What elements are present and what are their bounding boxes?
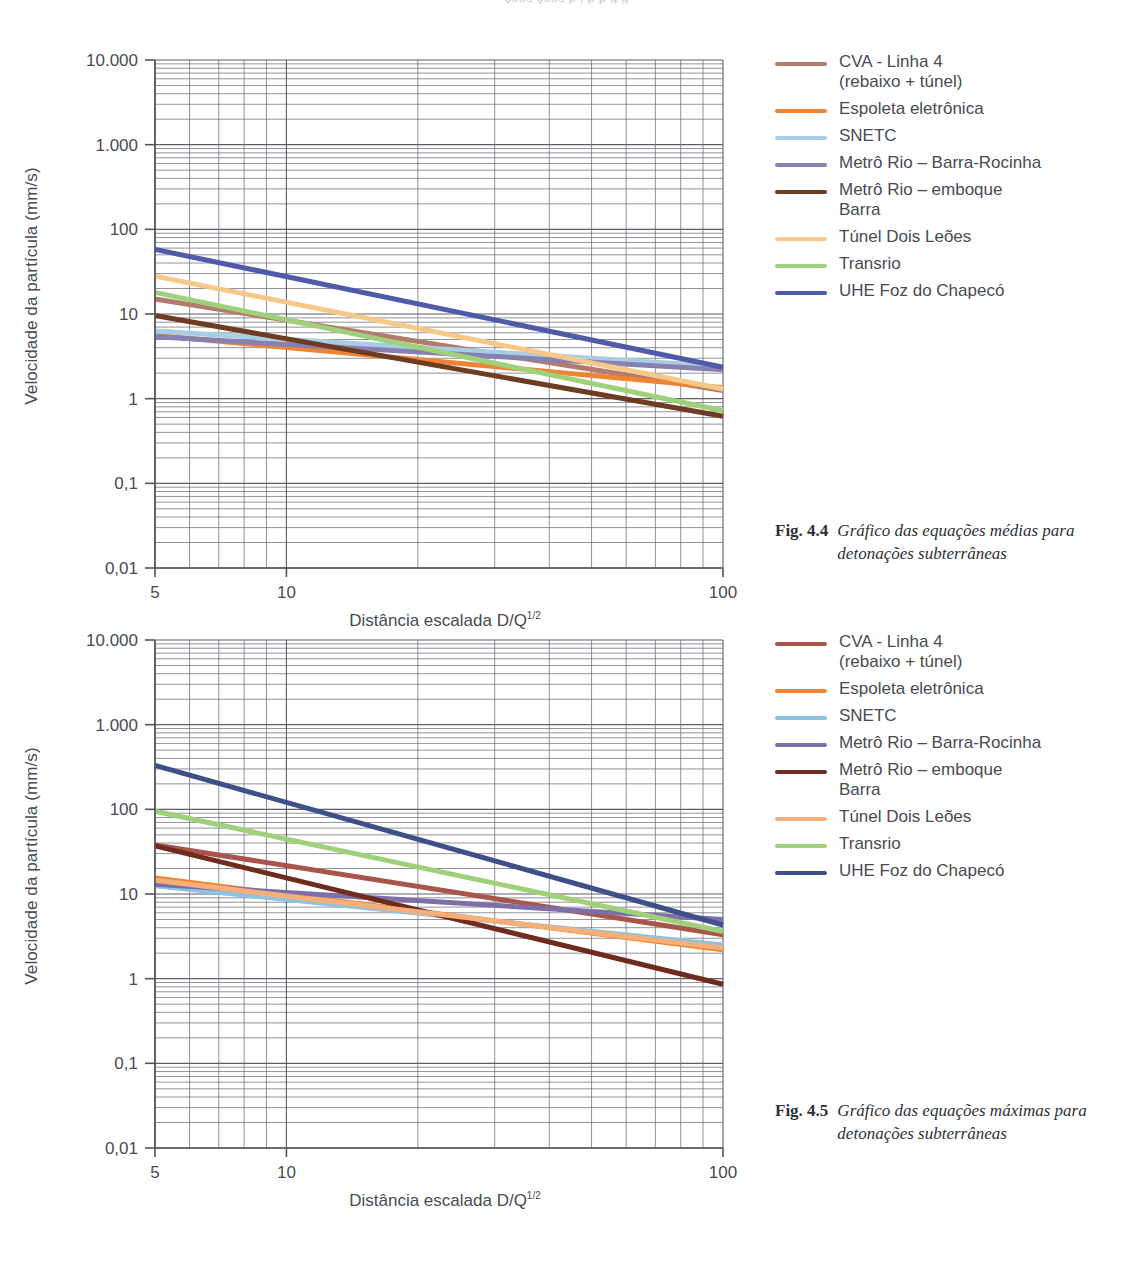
- legend-swatch-icon: [775, 237, 827, 241]
- y-axis-tick-label: 1.000: [95, 716, 138, 735]
- y-axis-tick-label: 1.000: [95, 136, 138, 155]
- legend-swatch-icon: [775, 62, 827, 66]
- chart-4-4: 0,010,11101001.00010.000510100 Velocidad…: [0, 30, 770, 630]
- x-axis-tick-label: 5: [150, 1163, 159, 1182]
- legend-swatch-icon: [775, 817, 827, 821]
- legend-item-1[interactable]: Espoleta eletrônica: [775, 679, 1133, 699]
- legend-item-label: Transrio: [839, 254, 1133, 274]
- figure-4-4-caption-text: Gráfico das equações médias para detonaç…: [837, 520, 1127, 566]
- y-axis-tick-label: 0,01: [105, 559, 138, 578]
- legend-item-2[interactable]: SNETC: [775, 706, 1133, 726]
- chart-4-4-svg: 0,010,11101001.00010.000510100: [0, 30, 770, 605]
- legend-item-0[interactable]: CVA - Linha 4 (rebaixo + túnel): [775, 52, 1133, 92]
- legend-item-7[interactable]: UHE Foz do Chapecó: [775, 281, 1133, 301]
- y-axis-tick-label: 1: [129, 970, 138, 989]
- legend-item-7[interactable]: UHE Foz do Chapecó: [775, 861, 1133, 881]
- y-axis-tick-label: 10: [119, 885, 138, 904]
- legend-swatch-icon: [775, 642, 827, 646]
- legend-item-label: Transrio: [839, 834, 1133, 854]
- legend-item-5[interactable]: Túnel Dois Leões: [775, 227, 1133, 247]
- legend-item-5[interactable]: Túnel Dois Leões: [775, 807, 1133, 827]
- legend-item-label: UHE Foz do Chapecó: [839, 861, 1133, 881]
- chart-4-5-legend: CVA - Linha 4 (rebaixo + túnel)Espoleta …: [775, 632, 1133, 888]
- legend-item-label: CVA - Linha 4 (rebaixo + túnel): [839, 632, 1133, 672]
- figure-4-4-caption-number: Fig. 4.4: [775, 520, 828, 543]
- legend-swatch-icon: [775, 291, 827, 295]
- y-axis-tick-label: 1: [129, 390, 138, 409]
- legend-swatch-icon: [775, 109, 827, 113]
- legend-item-3[interactable]: Metrô Rio – Barra-Rocinha: [775, 733, 1133, 753]
- chart-4-4-legend: CVA - Linha 4 (rebaixo + túnel)Espoleta …: [775, 52, 1133, 308]
- legend-item-0[interactable]: CVA - Linha 4 (rebaixo + túnel): [775, 632, 1133, 672]
- figure-4-5-caption-number: Fig. 4.5: [775, 1100, 828, 1123]
- legend-item-2[interactable]: SNETC: [775, 126, 1133, 146]
- legend-item-label: Espoleta eletrônica: [839, 679, 1133, 699]
- y-axis-tick-label: 100: [110, 220, 138, 239]
- chart-4-5-svg: 0,010,11101001.00010.000510100: [0, 610, 770, 1185]
- legend-swatch-icon: [775, 743, 827, 747]
- figure-4-5: 0,010,11101001.00010.000510100 Velocidad…: [0, 610, 1133, 1190]
- legend-item-label: Metrô Rio – emboque Barra: [839, 760, 1133, 800]
- x-axis-tick-label: 5: [150, 583, 159, 602]
- legend-swatch-icon: [775, 163, 827, 167]
- figure-4-5-caption: Fig. 4.5 Gráfico das equações máximas pa…: [775, 1100, 1127, 1146]
- legend-swatch-icon: [775, 264, 827, 268]
- legend-item-label: SNETC: [839, 126, 1133, 146]
- legend-swatch-icon: [775, 770, 827, 774]
- y-axis-tick-label: 10.000: [86, 631, 138, 650]
- x-axis-tick-label: 10: [277, 583, 296, 602]
- legend-item-6[interactable]: Transrio: [775, 834, 1133, 854]
- legend-item-label: UHE Foz do Chapecó: [839, 281, 1133, 301]
- legend-item-label: SNETC: [839, 706, 1133, 726]
- legend-swatch-icon: [775, 689, 827, 693]
- legend-item-label: CVA - Linha 4 (rebaixo + túnel): [839, 52, 1133, 92]
- legend-swatch-icon: [775, 844, 827, 848]
- legend-item-label: Espoleta eletrônica: [839, 99, 1133, 119]
- legend-item-label: Metrô Rio – emboque Barra: [839, 180, 1133, 220]
- chart-4-5-xlabel-exponent: 1/2: [527, 1190, 541, 1201]
- chart-4-5: 0,010,11101001.00010.000510100 Velocidad…: [0, 610, 770, 1210]
- y-axis-tick-label: 100: [110, 800, 138, 819]
- x-axis-tick-label: 100: [709, 1163, 737, 1182]
- figure-4-5-caption-text: Gráfico das equações máximas para detona…: [837, 1100, 1127, 1146]
- legend-swatch-icon: [775, 190, 827, 194]
- legend-swatch-icon: [775, 716, 827, 720]
- legend-item-label: Túnel Dois Leões: [839, 807, 1133, 827]
- cut-off-text-line: ções ções p , p p g g: [0, 0, 1133, 4]
- legend-swatch-icon: [775, 136, 827, 140]
- legend-item-label: Túnel Dois Leões: [839, 227, 1133, 247]
- legend-item-3[interactable]: Metrô Rio – Barra-Rocinha: [775, 153, 1133, 173]
- legend-item-1[interactable]: Espoleta eletrônica: [775, 99, 1133, 119]
- legend-item-4[interactable]: Metrô Rio – emboque Barra: [775, 760, 1133, 800]
- chart-4-5-ylabel: Velocidade da partícula (mm/s): [22, 666, 42, 1066]
- figure-4-4: 0,010,11101001.00010.000510100 Velocidad…: [0, 30, 1133, 610]
- figure-4-4-caption: Fig. 4.4 Gráfico das equações médias par…: [775, 520, 1127, 566]
- page-root: ções ções p , p p g g 0,010,11101001.000…: [0, 0, 1133, 1264]
- y-axis-tick-label: 10.000: [86, 51, 138, 70]
- legend-item-6[interactable]: Transrio: [775, 254, 1133, 274]
- legend-item-label: Metrô Rio – Barra-Rocinha: [839, 153, 1133, 173]
- chart-4-5-xlabel: Distância escalada D/Q1/2: [160, 1190, 730, 1211]
- chart-4-5-xlabel-text: Distância escalada D/Q: [349, 1191, 527, 1210]
- y-axis-tick-label: 0,01: [105, 1139, 138, 1158]
- chart-4-4-ylabel: Velocidade da partícula (mm/s): [22, 86, 42, 486]
- y-axis-tick-label: 0,1: [114, 1054, 138, 1073]
- x-axis-tick-label: 100: [709, 583, 737, 602]
- y-axis-tick-label: 10: [119, 305, 138, 324]
- legend-swatch-icon: [775, 871, 827, 875]
- y-axis-tick-label: 0,1: [114, 474, 138, 493]
- legend-item-label: Metrô Rio – Barra-Rocinha: [839, 733, 1133, 753]
- x-axis-tick-label: 10: [277, 1163, 296, 1182]
- legend-item-4[interactable]: Metrô Rio – emboque Barra: [775, 180, 1133, 220]
